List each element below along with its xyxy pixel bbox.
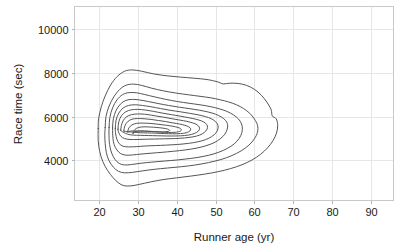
x-tick-label: 30 [132, 206, 144, 218]
x-tick-label: 40 [171, 206, 183, 218]
x-tick-label: 60 [248, 206, 260, 218]
chart-background [0, 0, 409, 248]
y-tick-label: 8000 [44, 68, 68, 80]
x-tick-label: 80 [326, 206, 338, 218]
y-tick-label: 6000 [44, 112, 68, 124]
x-tick-label: 70 [287, 206, 299, 218]
x-tick-label: 50 [210, 206, 222, 218]
x-axis-title: Runner age (yr) [194, 231, 275, 243]
x-tick-label: 20 [93, 206, 105, 218]
race-time-vs-age-contour-chart: 2030405060708090 40006000800010000 Runne… [0, 0, 409, 248]
x-tick-label: 90 [365, 206, 377, 218]
contour-plot-figure: 2030405060708090 40006000800010000 Runne… [0, 0, 409, 248]
y-tick-label: 10000 [38, 24, 69, 36]
y-tick-label: 4000 [44, 155, 68, 167]
y-axis-title: Race time (sec) [12, 64, 24, 145]
